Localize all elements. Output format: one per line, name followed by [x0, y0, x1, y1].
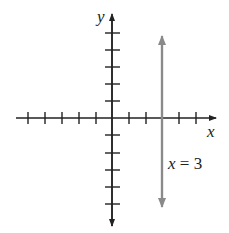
- y-axis-label: y: [95, 7, 105, 26]
- x-axis: [16, 112, 216, 124]
- line-equation-value: = 3: [176, 154, 203, 173]
- coordinate-plane: y x x = 3: [0, 0, 229, 233]
- line-equation-label: x = 3: [167, 154, 202, 173]
- y-axis: [105, 14, 120, 226]
- x-axis-label: x: [206, 122, 215, 141]
